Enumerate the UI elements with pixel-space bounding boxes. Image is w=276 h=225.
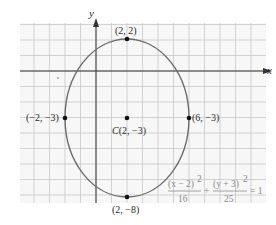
- label-bottom-vertex: (2, −8): [112, 204, 139, 216]
- label-center: C(2, −3): [112, 125, 146, 137]
- point-center: [125, 116, 130, 121]
- point-left-vertex: [63, 116, 68, 121]
- center-coords: (2, −3): [119, 125, 146, 137]
- eq-denominator-1: 16: [178, 194, 188, 204]
- y-axis-label: y: [88, 7, 94, 19]
- eq-exponent-2: 2: [243, 174, 248, 184]
- ellipse-graph: x y (2, 2) (−2, −3) (6, −3) (2, −8) C(2,…: [0, 0, 276, 225]
- label-top-vertex: (2, 2): [115, 25, 137, 37]
- label-right-vertex: (6, −3): [192, 112, 219, 124]
- label-left-vertex: (−2, −3): [26, 112, 59, 124]
- eq-numerator-2: (y + 3): [213, 179, 239, 190]
- stray-mark: [57, 77, 59, 79]
- eq-numerator-1: (x − 2): [168, 179, 194, 190]
- eq-exponent-1: 2: [197, 174, 202, 184]
- x-axis-label: x: [266, 64, 272, 76]
- point-top-vertex: [125, 37, 130, 42]
- eq-rhs: = 1: [250, 186, 263, 196]
- y-axis-arrow-icon: [93, 18, 99, 27]
- point-right-vertex: [187, 116, 192, 121]
- eq-plus: +: [204, 186, 209, 196]
- point-bottom-vertex: [125, 195, 130, 200]
- eq-denominator-2: 25: [224, 194, 234, 204]
